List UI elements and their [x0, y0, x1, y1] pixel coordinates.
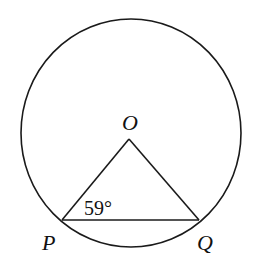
angle-label-P: 59°	[84, 197, 112, 219]
point-label-Q: Q	[197, 230, 213, 255]
geometry-diagram: O P Q 59°	[0, 0, 256, 267]
segment-OQ	[129, 139, 199, 220]
point-label-O: O	[122, 110, 138, 135]
point-label-P: P	[41, 230, 55, 255]
